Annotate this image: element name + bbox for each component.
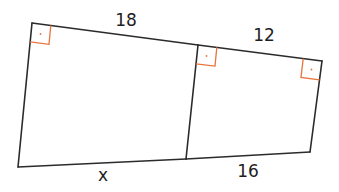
right-angle-marker-top-left: [30, 26, 51, 45]
marker-dot-icon: [206, 55, 208, 57]
bottom-edge-right: [186, 152, 310, 159]
left-edge: [18, 23, 32, 167]
label-bottom-left-segment: x: [98, 165, 108, 185]
geometry-diagram: 18 12 x 16: [0, 0, 339, 192]
marker-dot-icon: [40, 33, 42, 35]
marker-dot-icon: [311, 69, 313, 71]
label-top-left-segment: 18: [115, 10, 137, 30]
right-edge: [310, 61, 322, 152]
label-bottom-right-segment: 16: [237, 161, 259, 181]
right-angle-marker-top-right: [301, 59, 320, 80]
middle-edge: [186, 45, 198, 159]
right-angle-marker-top-middle: [196, 47, 217, 66]
label-top-right-segment: 12: [253, 25, 275, 45]
